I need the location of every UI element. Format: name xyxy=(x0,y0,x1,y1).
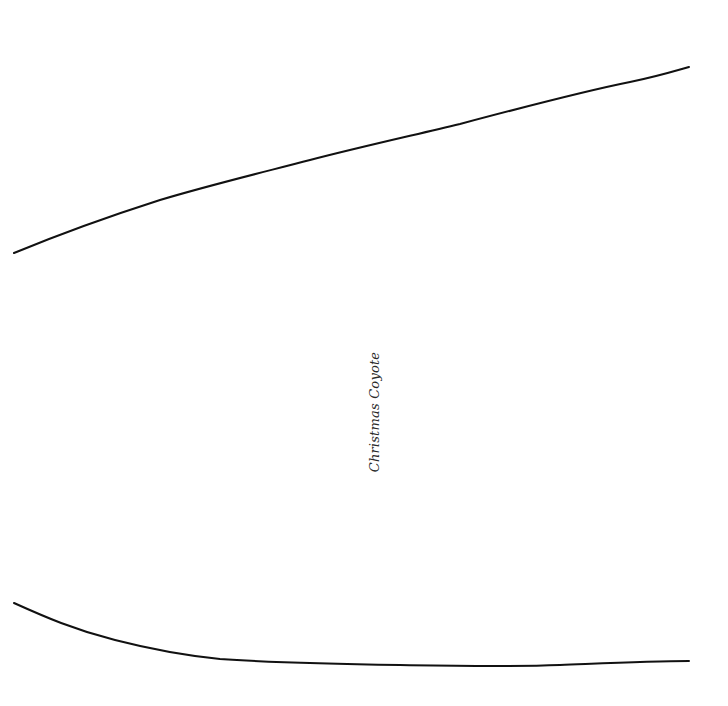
top-curve-line xyxy=(14,67,689,253)
bottom-curve-line xyxy=(14,603,689,666)
spine-title: Christmas Coyote xyxy=(367,352,382,473)
spine-template xyxy=(0,0,728,706)
